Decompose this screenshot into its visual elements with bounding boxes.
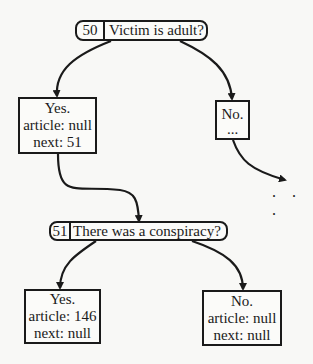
answer-label: No.	[204, 293, 280, 310]
continuation-ellipsis: . . .	[272, 183, 313, 219]
question-id: 50	[77, 22, 105, 39]
answer-ellipsis: ...	[217, 123, 248, 135]
question-node-51: 51 There was a conspiracy?	[49, 221, 228, 241]
answer-article: article: null	[204, 310, 280, 327]
answer-next: next: 51	[20, 134, 95, 151]
question-id: 51	[51, 223, 71, 239]
edge-q50-yes	[57, 41, 111, 96]
question-node-50: 50 Victim is adult?	[75, 20, 208, 41]
answer-label: No.	[217, 106, 248, 123]
answer-next: next: null	[26, 325, 99, 342]
edge-q51-yes	[60, 241, 96, 288]
question-text: Victim is adult?	[105, 22, 204, 39]
edge-q50-no	[180, 41, 232, 99]
answer-no-node-50: No. ...	[215, 100, 250, 140]
answer-label: Yes.	[26, 291, 99, 308]
question-text: There was a conspiracy?	[71, 223, 221, 239]
edge-no-continuation	[233, 140, 285, 180]
answer-yes-node-51: Yes. article: 146 next: null	[24, 289, 101, 344]
answer-no-node-51: No. article: null next: null	[202, 290, 282, 346]
answer-yes-node-50: Yes. article: null next: 51	[18, 97, 97, 154]
answer-article: article: 146	[26, 308, 99, 325]
answer-label: Yes.	[20, 100, 95, 117]
edge-q51-no	[192, 241, 243, 289]
answer-next: next: null	[204, 327, 280, 344]
answer-article: article: null	[20, 117, 95, 134]
edge-yes-q51	[58, 154, 139, 221]
decision-tree-diagram: 50 Victim is adult? Yes. article: null n…	[0, 0, 313, 364]
